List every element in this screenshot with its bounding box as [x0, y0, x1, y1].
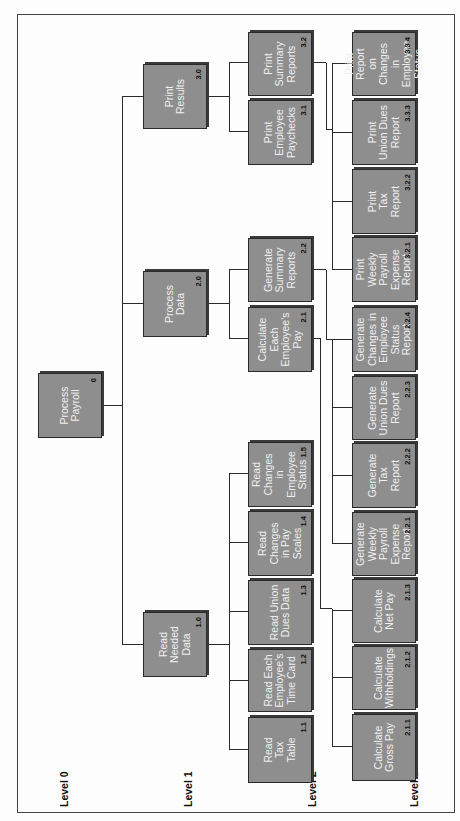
- node-label: Read Tax Table: [263, 737, 298, 762]
- node-label: Generate Tax Report: [367, 454, 402, 498]
- node-number: 3.2.2: [404, 174, 412, 191]
- node-process-payroll: Process Payroll 0: [38, 373, 102, 438]
- connector-line: [332, 407, 352, 408]
- node-number: 1.3: [300, 585, 308, 595]
- node-read-needed-data: Read Needed Data 1.0: [143, 612, 207, 677]
- connector-line: [326, 63, 327, 130]
- node-label: Print Results: [164, 79, 187, 114]
- node-calculate-net-pay: Calculate Net Pay 2.1.3: [352, 579, 416, 643]
- connector-line: [229, 131, 248, 132]
- connector-line: [229, 63, 230, 132]
- connector-line: [229, 611, 248, 612]
- node-number: 1.0: [195, 617, 203, 627]
- node-label: Print Employee Paychecks: [263, 107, 298, 158]
- node-number: 2.1.2: [404, 651, 412, 668]
- node-label: Read Changes in Pay Scales: [257, 522, 303, 564]
- node-calculate-gross-pay: Calculate Gross Pay 2.1.1: [352, 714, 416, 781]
- node-label: Calculate Withholdings: [373, 648, 396, 708]
- level-0-label: Level 0: [58, 771, 70, 807]
- connector-line: [207, 96, 229, 97]
- node-generate-union-dues-report: Generate Union Dues Report 2.2.3: [352, 376, 416, 440]
- hierarchy-diagram: Level 0 Level 1 Level 2 Level 3: [0, 0, 460, 821]
- connector-line: [229, 270, 230, 339]
- connector-line: [332, 64, 333, 270]
- connector-line: [332, 339, 333, 544]
- node-label: Calculate Net Pay: [373, 589, 396, 633]
- node-label: Process Data: [164, 285, 187, 323]
- connector-line: [207, 303, 229, 304]
- connector-line: [332, 610, 352, 611]
- node-read-employee-status: Read Changes in Employee Status 1.5: [248, 442, 312, 507]
- connector-line: [229, 749, 248, 750]
- connector-line: [229, 269, 248, 270]
- node-generate-status-changes-report: Generate Changes in Employee Status Repo…: [352, 307, 416, 372]
- node-number: 2.2.1: [404, 517, 412, 534]
- connector-line: [332, 269, 352, 270]
- node-read-pay-scales: Read Changes in Pay Scales 1.4: [248, 511, 312, 576]
- connector-line: [229, 680, 248, 681]
- connector-line: [326, 270, 327, 340]
- node-number: 3.0: [195, 69, 203, 79]
- node-number: 1.1: [300, 722, 308, 732]
- node-number: 3.3.4: [404, 37, 412, 54]
- node-number: 2.1.1: [404, 719, 412, 736]
- node-number: 0: [90, 378, 98, 382]
- node-print-union-dues-report: Print Union Dues Report 3.3.3: [352, 100, 416, 165]
- node-label: Print Tax Report: [367, 186, 402, 218]
- node-number: 2.1.3: [404, 584, 412, 601]
- connector-line: [332, 543, 352, 544]
- node-number: 1.5: [300, 447, 308, 457]
- node-label: Print Union Dues Report: [367, 105, 402, 160]
- node-read-union-dues: Read Union Dues Data 1.3: [248, 580, 312, 645]
- node-read-tax-table: Read Tax Table 1.1: [248, 717, 312, 783]
- connector-line: [332, 339, 352, 340]
- connector-line: [229, 542, 248, 543]
- connector-line: [312, 269, 326, 270]
- node-print-results: Print Results 3.0: [143, 64, 207, 129]
- node-number: 2.1: [300, 312, 308, 322]
- node-number: 3.2: [300, 37, 308, 47]
- node-label: Calculate Gross Pay: [373, 723, 396, 772]
- node-print-tax-report: Print Tax Report 3.2.2: [352, 169, 416, 234]
- connector-line: [332, 132, 352, 133]
- connector-line: [122, 96, 143, 97]
- node-number: 3.3.3: [404, 105, 412, 122]
- node-label: Generate Summary Reports: [263, 248, 298, 293]
- connector-line: [312, 62, 326, 63]
- connector-line: [332, 475, 352, 476]
- connector-line: [320, 338, 321, 609]
- node-calculate-pay: Calculate Each Employee's Pay 2.1: [248, 307, 312, 372]
- connector-line: [332, 677, 352, 678]
- connector-line: [312, 338, 320, 339]
- node-generate-tax-report: Generate Tax Report 2.2.2: [352, 443, 416, 508]
- node-print-status-changes-report: Print Report on Changes in Employee Stat…: [352, 32, 416, 96]
- node-number: 2.2.4: [404, 312, 412, 329]
- node-number: 1.4: [300, 516, 308, 526]
- node-number: 2.2.2: [404, 448, 412, 465]
- connector-line: [332, 746, 352, 747]
- node-number: 3.2.1: [404, 242, 412, 259]
- connector-line: [332, 609, 333, 747]
- node-label: Calculate Each Employee's Pay: [257, 313, 303, 367]
- node-print-payroll-expense-report: Print Weekly Payroll Expense Report 3.2.…: [352, 237, 416, 302]
- connector-line: [122, 303, 143, 304]
- connector-line: [122, 644, 143, 645]
- node-number: 2.2: [300, 243, 308, 253]
- connector-line: [320, 608, 332, 609]
- node-number: 3.1: [300, 105, 308, 115]
- node-print-summary-reports: Print Summary Reports 3.2: [248, 32, 312, 96]
- connector-line: [229, 473, 248, 474]
- node-label: Read Union Dues Data: [269, 585, 292, 640]
- connector-line: [229, 62, 248, 63]
- node-process-data: Process Data 2.0: [143, 271, 207, 337]
- node-label: Read Needed Data: [158, 626, 193, 663]
- connector-line: [122, 96, 123, 645]
- node-calculate-withholdings: Calculate Withholdings 2.1.2: [352, 646, 416, 710]
- level-1-label: Level 1: [182, 771, 194, 807]
- node-label: Print Report on Changes in Employee Stat…: [344, 36, 425, 92]
- connector-line: [332, 201, 352, 202]
- node-number: 2.0: [195, 276, 203, 286]
- node-label: Read Each Employee's Time Card: [263, 654, 298, 708]
- connector-line: [207, 644, 229, 645]
- node-label: Print Summary Reports: [263, 42, 298, 87]
